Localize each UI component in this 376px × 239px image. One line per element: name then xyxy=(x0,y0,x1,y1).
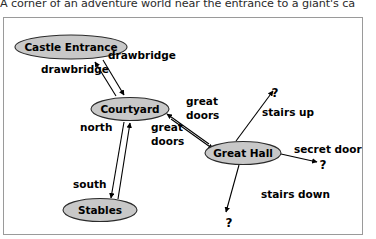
edge-label-great-doors-upper: great doors xyxy=(186,95,219,121)
node-label-unknown-stairs-down: ? xyxy=(226,216,233,230)
edge-label-secret-door: secret door xyxy=(294,143,362,155)
figure-caption: A corner of an adventure world near the … xyxy=(0,0,376,10)
edge-courtyard-to-stables xyxy=(111,122,124,198)
edge-label-drawbridge-left: drawbridge xyxy=(41,63,109,75)
node-great-hall[interactable]: Great Hall xyxy=(205,142,281,165)
edge-label-south: south xyxy=(73,178,106,190)
edge-label-great-doors-upper-line1: great xyxy=(186,95,218,107)
node-label-stables: Stables xyxy=(78,204,122,216)
node-label-unknown-secret-door: ? xyxy=(320,158,327,172)
node-label-unknown-stairs-up: ? xyxy=(272,86,279,100)
edge-label-great-doors-upper-line2: doors xyxy=(186,109,219,121)
figure-frame: Castle Entrance Courtyard Great Hall Sta… xyxy=(3,17,363,235)
edge-label-stairs-up: stairs up xyxy=(262,106,315,118)
edge-label-great-doors-lower: great doors xyxy=(151,121,184,147)
edge-label-great-doors-lower-line1: great xyxy=(151,121,183,133)
edge-label-drawbridge-right: drawbridge xyxy=(108,49,176,61)
node-courtyard[interactable]: Courtyard xyxy=(91,98,169,121)
node-label-great-hall: Great Hall xyxy=(213,147,273,159)
node-stables[interactable]: Stables xyxy=(63,199,137,222)
edge-great-hall-to-stairs-down xyxy=(226,165,239,212)
node-label-courtyard: Courtyard xyxy=(100,103,159,115)
edge-label-great-doors-lower-line2: doors xyxy=(151,135,184,147)
edge-label-stairs-down: stairs down xyxy=(261,188,330,200)
node-label-castle-entrance: Castle Entrance xyxy=(24,41,117,53)
edge-label-north: north xyxy=(80,121,112,133)
adventure-world-graph: Castle Entrance Courtyard Great Hall Sta… xyxy=(4,18,362,234)
edge-great-hall-to-secret-door xyxy=(281,154,317,162)
edge-stables-to-courtyard xyxy=(118,123,130,199)
